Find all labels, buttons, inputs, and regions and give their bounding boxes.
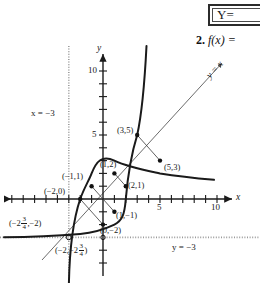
frac-label-open-1: (−2 (9, 218, 21, 228)
label-point-neg2-0: (−2,0) (44, 187, 65, 196)
graph-canvas (0, 0, 260, 283)
frac-label-close-2: ) (85, 245, 88, 255)
frac-label-close-1: ,−2) (27, 218, 41, 228)
y-tick-label-10: 10 (88, 66, 97, 75)
y-tick-label-5: 5 (92, 130, 97, 139)
label-point-3-5: (3,5) (117, 126, 133, 135)
label-point-2-1: (2,1) (128, 181, 144, 190)
line-y-equals-x (42, 63, 222, 260)
frac-label-open-2: (−2,−2 (55, 245, 78, 255)
fraction-three-quarters-2: 34 (79, 243, 85, 258)
logarithmic-curve (69, 158, 214, 283)
fraction-numerator-2: 3 (79, 243, 85, 250)
point-neg1-1 (89, 184, 93, 188)
label-point-0-neg2: (0,−2) (100, 226, 121, 235)
horizontal-asymptote-label: y = −3 (172, 243, 196, 252)
label-point-neg2-three-quarters-neg2: (−234,−2) (9, 216, 41, 231)
point-1-2 (112, 171, 116, 175)
y-axis-label: y (97, 44, 101, 54)
label-point-1-neg1: (1,−1) (116, 211, 137, 220)
point-3-5 (135, 133, 139, 137)
point-neg2-0 (78, 197, 82, 201)
x-tick-label-10: 10 (211, 203, 220, 212)
label-point-5-3: (5,3) (164, 163, 180, 172)
exponential-curve (4, 46, 147, 237)
label-point-neg1-1: (−1,1) (62, 172, 83, 181)
x-tick-label-5: 5 (157, 203, 162, 212)
point-5-3 (158, 158, 162, 162)
label-point-neg2-neg2-three-quarters: (−2,−234) (55, 243, 87, 258)
x-axis (4, 195, 232, 203)
fraction-denominator-2: 4 (79, 250, 85, 258)
vertical-asymptote-label: x = −3 (31, 109, 55, 118)
label-point-1-2: (1,2) (100, 160, 116, 169)
x-axis-label: x (236, 193, 240, 203)
figure-root: Y= 2. f(x) = (0, 0, 260, 283)
